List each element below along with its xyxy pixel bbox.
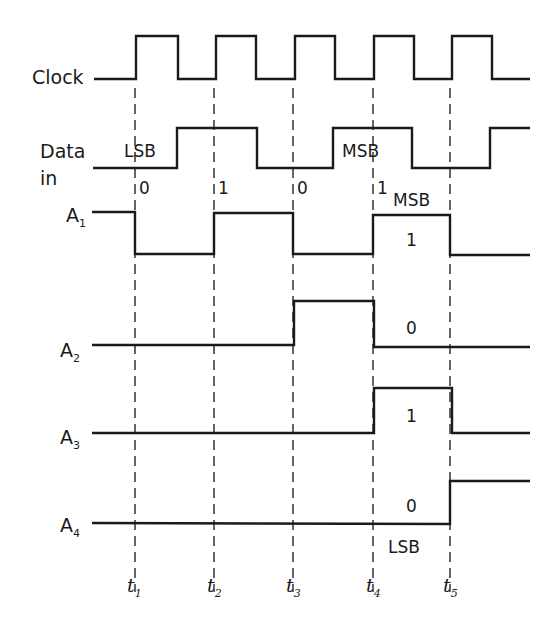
- a4-label: A4: [60, 514, 80, 540]
- a1-waveform: [92, 212, 530, 255]
- a3-value: 1: [406, 406, 417, 426]
- a2-waveform: [92, 301, 530, 347]
- time-guides: [135, 88, 450, 592]
- a1-msb-annotation: MSB: [393, 190, 430, 210]
- time-label-t1: t1: [127, 574, 142, 600]
- clock-waveform: [94, 36, 530, 79]
- a4-waveform: [92, 481, 530, 524]
- data-in-label-line1: Data: [40, 140, 85, 162]
- data-msb-annotation: MSB: [342, 141, 379, 161]
- a3-waveform: [92, 388, 530, 433]
- a2-value: 0: [406, 318, 417, 338]
- a1-label: A1: [66, 204, 86, 230]
- data-in-label-line2: in: [40, 167, 57, 189]
- a4-lsb-annotation: LSB: [388, 537, 420, 557]
- a2-label: A2: [60, 339, 80, 365]
- timing-diagram: Clock Data in A1 A2 A3 A4 LSB MSB 0 1 0 …: [0, 0, 555, 632]
- a1-value: 1: [406, 230, 417, 250]
- data-bit-4: 1: [377, 178, 388, 198]
- data-lsb-annotation: LSB: [124, 141, 156, 161]
- time-label-t2: t2: [207, 574, 222, 600]
- time-label-t4: t4: [366, 574, 381, 600]
- data-in-waveform: [93, 128, 530, 168]
- time-label-t5: t5: [443, 574, 458, 600]
- data-bit-2: 1: [218, 178, 229, 198]
- data-bit-3: 0: [297, 178, 308, 198]
- data-bit-1: 0: [139, 178, 150, 198]
- clock-label: Clock: [32, 66, 84, 88]
- a4-value: 0: [406, 496, 417, 516]
- time-label-t3: t3: [286, 574, 301, 600]
- a3-label: A3: [60, 426, 80, 452]
